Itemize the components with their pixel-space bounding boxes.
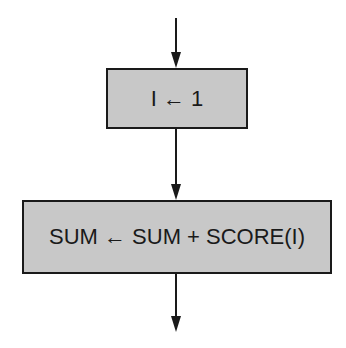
flowchart-canvas: I ← 1 SUM ← SUM + SCORE(I) <box>0 0 346 348</box>
entry-arrow-head-icon <box>171 52 181 68</box>
middle-arrow-shaft <box>175 129 177 189</box>
process-box-init: I ← 1 <box>106 68 248 129</box>
process-box-accumulate: SUM ← SUM + SCORE(I) <box>22 200 332 274</box>
process-label-init: I ← 1 <box>151 86 204 112</box>
exit-arrow-head-icon <box>171 316 181 332</box>
process-label-accumulate: SUM ← SUM + SCORE(I) <box>49 224 305 250</box>
exit-arrow-shaft <box>175 274 177 320</box>
entry-arrow-shaft <box>175 18 177 56</box>
middle-arrow-head-icon <box>171 184 181 200</box>
